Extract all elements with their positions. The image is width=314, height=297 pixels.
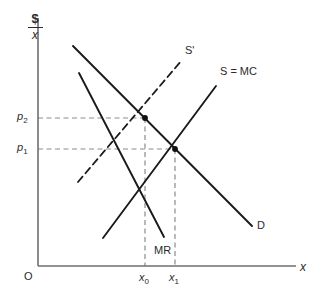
curve-label-demand: D [257, 220, 265, 231]
y-tick-label-p1: p1 [17, 142, 28, 156]
y-tick-label-p2: p2 [17, 111, 28, 125]
equilibrium-point-monopoly [142, 115, 148, 121]
curve-label-supply-shifted: S' [185, 45, 194, 56]
equilibrium-point-competitive [172, 146, 178, 152]
x-axis-label: x [300, 261, 306, 273]
origin-label: O [24, 271, 33, 282]
economics-diagram: $ x p2 p1 x0 x1 O x S' S = MC D MR [0, 0, 314, 297]
x-tick-label-x1: x1 [169, 272, 179, 286]
curve-label-marginal-revenue: MR [154, 245, 171, 256]
supply-shifted-curve [78, 60, 182, 182]
supply-mc-curve [103, 86, 216, 238]
y-axis-label: $ x [22, 12, 48, 41]
x-tick-label-x0: x0 [139, 272, 149, 286]
y-axis-label-numerator: $ [22, 12, 48, 27]
y-axis-label-denominator: x [22, 28, 48, 42]
curve-label-supply-mc: S = MC [220, 66, 257, 77]
